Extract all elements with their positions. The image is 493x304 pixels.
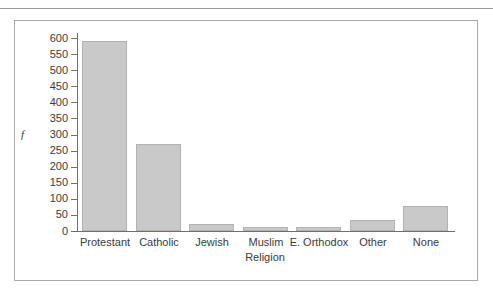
y-axis-tick-mark: [71, 54, 77, 55]
y-axis-tick-mark: [71, 231, 77, 232]
x-axis-title: Religion: [205, 251, 325, 263]
y-axis-tick-labels: 600550500450400350300250200150100500: [30, 0, 68, 304]
y-axis-tick-mark: [71, 70, 77, 71]
bar-jewish: [189, 224, 234, 231]
x-axis-line: [77, 231, 455, 232]
y-axis-line: [77, 33, 78, 232]
y-axis-tick-label: 550: [34, 49, 68, 60]
y-axis-tick-mark: [71, 167, 77, 168]
y-axis-tick-label: 600: [34, 33, 68, 44]
header-rule: [0, 8, 493, 9]
y-axis-tick-mark: [71, 199, 77, 200]
y-axis-tick-label: 200: [34, 161, 68, 172]
y-axis-tick-label: 250: [34, 145, 68, 156]
bar-muslim: [243, 227, 288, 231]
y-axis-tick-label: 350: [34, 113, 68, 124]
y-axis-tick-mark: [71, 151, 77, 152]
y-axis-tick-label: 50: [34, 209, 68, 220]
y-axis-tick-label: 500: [34, 65, 68, 76]
y-axis-tick-label: 100: [34, 193, 68, 204]
y-axis-tick-label: 450: [34, 81, 68, 92]
bar-catholic: [136, 144, 181, 231]
y-axis-tick-label: 400: [34, 97, 68, 108]
y-axis-tick-mark: [71, 215, 77, 216]
y-axis-tick-mark: [71, 135, 77, 136]
bar-e-orthodox: [296, 227, 341, 231]
y-axis-tick-label: 0: [34, 226, 68, 237]
y-axis-tick-mark: [71, 102, 77, 103]
bar-protestant: [82, 41, 127, 231]
bar-none: [403, 206, 448, 231]
y-axis-tick-mark: [71, 183, 77, 184]
y-axis-tick-label: 150: [34, 177, 68, 188]
bar-other: [350, 220, 395, 231]
y-axis-title: f: [21, 129, 24, 140]
x-axis-tick-label: None: [391, 236, 461, 248]
y-axis-tick-mark: [71, 118, 77, 119]
y-axis-tick-label: 300: [34, 129, 68, 140]
y-axis-tick-mark: [71, 86, 77, 87]
y-axis-tick-mark: [71, 38, 77, 39]
